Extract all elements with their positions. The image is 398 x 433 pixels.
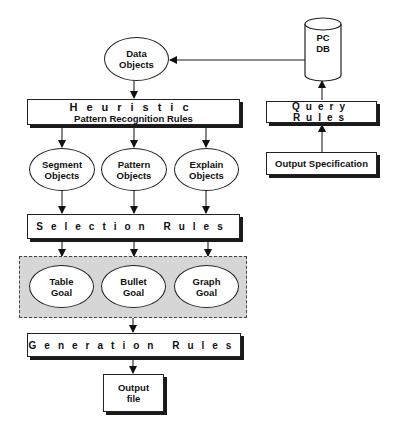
pattern-objects-line2: Objects xyxy=(117,170,152,181)
heuristic-rules-box[interactable]: Heuristic Pattern Recognition Rules xyxy=(27,99,240,125)
graph-goal-line2: Goal xyxy=(193,287,221,298)
data-objects-line2: Objects xyxy=(119,59,154,70)
segment-objects-line1: Segment xyxy=(42,159,82,170)
heuristic-subtitle: Pattern Recognition Rules xyxy=(74,113,193,124)
output-file-box[interactable]: Output file xyxy=(103,374,164,412)
pc-db-label: PC DB xyxy=(304,32,342,54)
explain-objects-line2: Objects xyxy=(189,170,224,181)
graph-goal-node[interactable]: Graph Goal xyxy=(174,265,239,308)
explain-objects-line1: Explain xyxy=(189,159,224,170)
table-goal-node[interactable]: Table Goal xyxy=(29,265,94,308)
bullet-goal-line1: Bullet xyxy=(120,276,146,287)
pattern-objects-node[interactable]: Pattern Objects xyxy=(101,148,167,191)
pattern-objects-line1: Pattern xyxy=(117,159,152,170)
generation-rules-label: Generation Rules xyxy=(29,340,240,351)
query-rules-label: Query Rules xyxy=(267,101,376,123)
table-goal-line1: Table xyxy=(49,276,73,287)
selection-rules-box[interactable]: Selection Rules xyxy=(27,214,240,239)
selection-rules-label: Selection Rules xyxy=(36,221,230,232)
output-file-line2: file xyxy=(127,393,141,404)
table-goal-line2: Goal xyxy=(49,287,73,298)
query-rules-box[interactable]: Query Rules xyxy=(266,101,377,123)
explain-objects-node[interactable]: Explain Objects xyxy=(174,148,239,191)
bullet-goal-line2: Goal xyxy=(120,287,146,298)
graph-goal-line1: Graph xyxy=(193,276,221,287)
output-specification-label: Output Specification xyxy=(275,158,368,169)
segment-objects-line2: Objects xyxy=(42,170,82,181)
bullet-goal-node[interactable]: Bullet Goal xyxy=(101,265,166,308)
output-file-line1: Output xyxy=(118,382,149,393)
data-objects-node[interactable]: Data Objects xyxy=(104,37,169,81)
data-objects-line1: Data xyxy=(119,48,154,59)
pc-db-line2: DB xyxy=(304,43,342,54)
heuristic-title: Heuristic xyxy=(69,101,197,113)
generation-rules-box[interactable]: Generation Rules xyxy=(27,333,241,357)
output-specification-box[interactable]: Output Specification xyxy=(266,152,377,175)
segment-objects-node[interactable]: Segment Objects xyxy=(29,148,95,191)
pc-db-line1: PC xyxy=(304,32,342,43)
